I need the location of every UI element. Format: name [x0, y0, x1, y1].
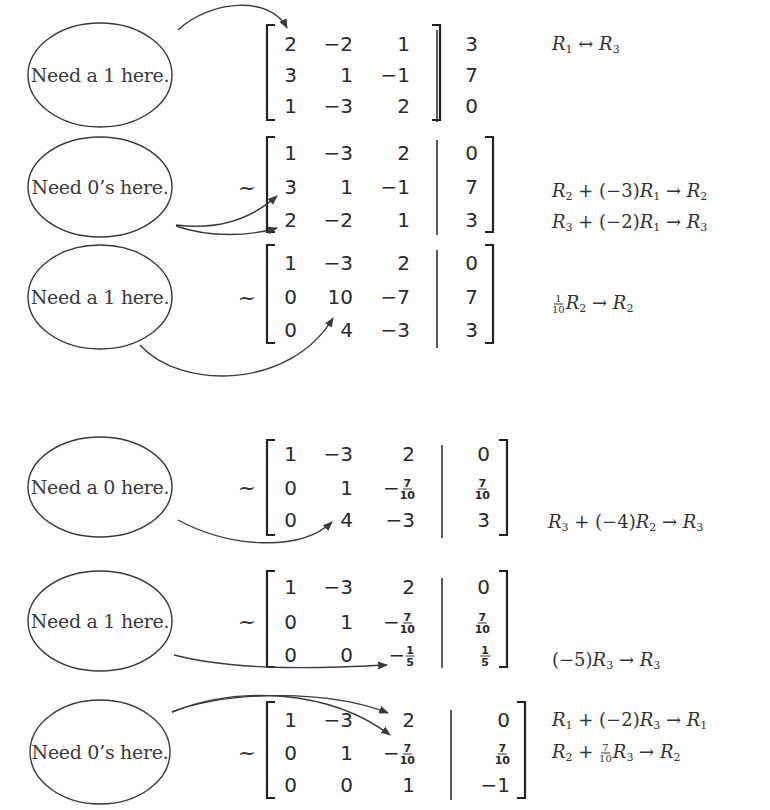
matrix-cell: 1 — [284, 575, 297, 599]
matrix-cell: −7 — [381, 285, 410, 309]
matrix-cell: 7 — [465, 175, 478, 199]
note-label: Need 0’s here. — [32, 176, 169, 198]
matrix-cell: 1 — [397, 32, 410, 56]
matrix-cell: 2 — [402, 575, 415, 599]
matrix-cell: −3 — [324, 442, 353, 466]
matrix-cell: 0 — [465, 94, 478, 118]
matrix-cell: 0 — [465, 251, 478, 275]
matrix-cell: 15 — [480, 643, 490, 668]
matrix-cell: 0 — [477, 575, 490, 599]
row-equivalent-symbol: ~ — [238, 475, 256, 500]
matrix-cell: −1 — [381, 175, 410, 199]
matrix-cell: −710 — [383, 741, 415, 766]
matrix-cell: −15 — [389, 643, 415, 668]
arrow-5 — [174, 655, 387, 668]
matrix-cell: 2 — [397, 94, 410, 118]
matrix-cell: 3 — [284, 175, 297, 199]
matrix-cell: 0 — [284, 773, 297, 797]
row-equivalent-symbol: ~ — [238, 175, 256, 200]
matrix-cell: 710 — [475, 476, 490, 501]
arrow-2a — [176, 196, 277, 226]
row-operation: R2 + 710R3 → R2 — [552, 741, 680, 764]
matrix-cell: 1 — [402, 773, 415, 797]
matrix-cell: 2 — [397, 141, 410, 165]
matrix-cell: −3 — [324, 251, 353, 275]
matrix-cell: 1 — [340, 63, 353, 87]
matrix-cell: 3 — [465, 318, 478, 342]
matrix-cell: 710 — [475, 610, 490, 635]
matrix-cell: 1 — [340, 741, 353, 765]
matrix-cell: 3 — [477, 508, 490, 532]
matrix-cell: 3 — [284, 63, 297, 87]
matrix-cell: −3 — [381, 318, 410, 342]
matrix-cell: −1 — [381, 63, 410, 87]
matrix-cell: 0 — [284, 285, 297, 309]
row-operation: R3 + (−2)R1 → R3 — [552, 211, 707, 234]
arrow-6b — [172, 695, 390, 735]
matrix-cell: 7 — [465, 285, 478, 309]
matrix-cell: 10 — [328, 285, 353, 309]
matrix-cell: −3 — [324, 575, 353, 599]
matrix-cell: −1 — [481, 773, 510, 797]
note-label: Need a 1 here. — [31, 286, 169, 308]
matrix-cell: 0 — [284, 741, 297, 765]
arrow-2b — [176, 226, 277, 235]
matrix-cell: −2 — [324, 32, 353, 56]
matrix-cell: −710 — [383, 476, 415, 501]
matrix-cell: −2 — [324, 208, 353, 232]
matrix-cell: −3 — [324, 141, 353, 165]
arrow-4 — [178, 520, 332, 543]
matrix-cell: 2 — [284, 32, 297, 56]
matrix-cell: 0 — [284, 318, 297, 342]
matrix-cell: 2 — [402, 708, 415, 732]
matrix-cell: 0 — [465, 141, 478, 165]
row-operation: 110R2 → R2 — [552, 292, 633, 315]
arrow-6a — [172, 696, 388, 713]
matrix-cell: 1 — [284, 708, 297, 732]
note-label: Need a 1 here. — [31, 610, 169, 632]
row-operation: R3 + (−4)R2 → R3 — [548, 511, 703, 534]
arrow-1 — [178, 5, 287, 30]
matrix-cell: 1 — [397, 208, 410, 232]
row-equivalent-symbol: ~ — [238, 609, 256, 634]
note-label: Need 0’s here. — [32, 741, 169, 763]
matrix-cell: 0 — [284, 643, 297, 667]
matrix-cell: −3 — [324, 708, 353, 732]
note-label: Need a 0 here. — [31, 476, 169, 498]
matrix-cell: 0 — [284, 508, 297, 532]
row-operation: R2 + (−3)R1 → R2 — [552, 180, 707, 203]
row-operation: (−5)R3 → R3 — [552, 649, 660, 672]
row-equivalent-symbol: ~ — [238, 740, 256, 765]
matrix-cell: 0 — [477, 442, 490, 466]
note-label: Need a 1 here. — [31, 64, 169, 86]
matrix-cell: 7 — [465, 63, 478, 87]
matrix-cell: 0 — [284, 476, 297, 500]
matrix-cell: 2 — [402, 442, 415, 466]
matrix-cell: 1 — [284, 94, 297, 118]
matrix-cell: 1 — [284, 442, 297, 466]
matrix-cell: 0 — [284, 610, 297, 634]
matrix-cell: −3 — [386, 508, 415, 532]
row-operation: R1 ↔ R3 — [552, 33, 620, 56]
row-equivalent-symbol: ~ — [238, 285, 256, 310]
matrix-cell: 1 — [284, 141, 297, 165]
diagram-graphics — [0, 0, 770, 810]
matrix-cell: 3 — [465, 208, 478, 232]
matrix-cell: 1 — [340, 175, 353, 199]
row-operation: R1 + (−2)R3 → R1 — [552, 709, 707, 732]
matrix-cell: 0 — [340, 643, 353, 667]
matrix-cell: 2 — [397, 251, 410, 275]
matrix-cell: 1 — [284, 251, 297, 275]
matrix-cell: 3 — [465, 32, 478, 56]
matrix-cell: 4 — [340, 508, 353, 532]
arrow-3 — [140, 318, 333, 376]
matrix-cell: 0 — [340, 773, 353, 797]
matrix-cell: 1 — [340, 476, 353, 500]
matrix-cell: 2 — [284, 208, 297, 232]
matrix-cell: 710 — [495, 741, 510, 766]
matrix-cell: 1 — [340, 610, 353, 634]
matrix-cell: −710 — [383, 610, 415, 635]
matrix-cell: 0 — [497, 708, 510, 732]
matrix-cell: −3 — [324, 94, 353, 118]
matrix-cell: 4 — [340, 318, 353, 342]
